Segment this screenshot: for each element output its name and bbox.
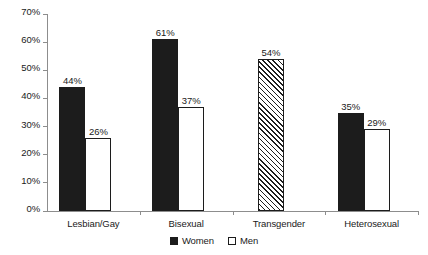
bar-value-label: 54% [262,47,281,58]
x-tick-mark [140,211,141,215]
legend-swatch-women [170,237,178,245]
bar-men-lesbian-gay: 26% [85,138,111,211]
bar-value-label: 44% [63,75,82,86]
bar-men-bisexual: 37% [178,107,204,211]
bar-value-label: 61% [156,27,175,38]
legend-swatch-men [228,237,236,245]
category-label-transgender: Transgender [233,218,326,229]
legend-label-men: Men [240,236,258,246]
y-tick-label: 0% [26,204,40,214]
category-label-heterosexual: Heterosexual [325,218,418,229]
y-tick-label: 10% [21,176,40,186]
y-tick-label: 50% [21,63,40,73]
y-tick-label: 20% [21,148,40,158]
bar-women-heterosexual: 35% [338,113,364,212]
bar-women-transgender: 54% [258,59,284,211]
bar-value-label: 37% [182,95,201,106]
y-tick-label: 60% [21,35,40,45]
x-tick-mark [418,211,419,215]
x-tick-mark [325,211,326,215]
legend-item-men: Men [228,236,258,246]
legend-label-women: Women [182,236,214,246]
y-tick-label: 40% [21,91,40,101]
legend-item-women: Women [170,236,214,246]
y-tick-label: 30% [21,120,40,130]
bar-chart: 0%10%20%30%40%50%60%70% 44%26%61%37%54%3… [0,0,428,255]
bar-men-heterosexual: 29% [364,129,390,211]
bar-women-lesbian-gay: 44% [59,87,85,211]
bar-value-label: 29% [367,117,386,128]
y-tick-label: 70% [21,7,40,17]
x-tick-mark [233,211,234,215]
chart-legend: WomenMen [0,236,428,246]
bar-women-bisexual: 61% [152,39,178,211]
category-label-lesbian-gay: Lesbian/Gay [47,218,140,229]
category-label-bisexual: Bisexual [140,218,233,229]
bar-value-label: 35% [341,101,360,112]
bar-value-label: 26% [89,126,108,137]
plot-area: 44%26%61%37%54%35%29% [47,14,418,211]
